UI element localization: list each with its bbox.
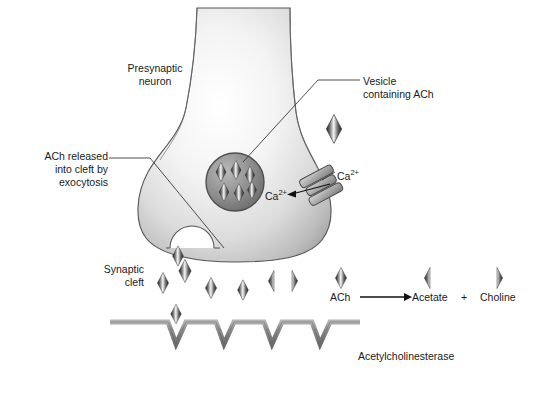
label-acetylcholinesterase: Acetylcholinesterase (358, 350, 454, 363)
label-reaction-substrate: ACh (330, 291, 350, 304)
label-calcium-inside: Ca2+ (265, 186, 287, 203)
label-vesicle-containing-ach: Vesicle containing ACh (363, 75, 473, 101)
cleft-molecule (179, 259, 191, 282)
docked-molecule (171, 304, 181, 324)
cleaved-ach-halves (268, 270, 297, 291)
label-calcium-outside: Ca2+ (337, 166, 359, 183)
calcium-inside-charge: 2+ (278, 188, 287, 197)
label-ach-released: ACh released into cleft by exocytosis (14, 150, 108, 189)
label-reaction-product-choline: Choline (480, 291, 516, 304)
presynaptic-neuron-body (138, 8, 331, 262)
cleft-molecule (157, 272, 168, 293)
reaction-arrow (360, 293, 412, 301)
calcium-inside-text: Ca (265, 190, 278, 202)
label-presynaptic-neuron: Presynaptic neuron (112, 62, 198, 88)
label-reaction-operator: + (461, 291, 467, 304)
label-synaptic-cleft: Synaptic cleft (78, 263, 144, 289)
reaction-ach (335, 267, 346, 288)
label-reaction-product-acetate: Acetate (412, 291, 448, 304)
reaction-acetate (424, 267, 430, 288)
calcium-outside-text: Ca (337, 170, 350, 182)
free-ach-molecule (326, 115, 341, 144)
postsynaptic-membrane (110, 322, 360, 344)
cleft-molecule (238, 280, 249, 300)
synaptic-vesicle (206, 153, 264, 211)
reaction-choline (497, 267, 503, 288)
calcium-outside-charge: 2+ (350, 168, 359, 177)
cleft-molecule (205, 277, 216, 298)
